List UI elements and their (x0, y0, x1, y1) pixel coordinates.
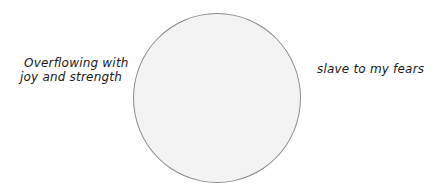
left-label-line-1: Overflowing with (24, 56, 129, 70)
central-circle (133, 13, 301, 183)
left-label: Overflowing with joy and strength (24, 56, 129, 84)
right-label: slave to my fears (317, 62, 424, 76)
left-label-line-2: joy and strength (20, 70, 129, 84)
